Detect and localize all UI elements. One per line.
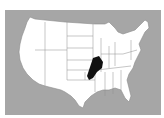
us-map bbox=[5, 10, 161, 115]
